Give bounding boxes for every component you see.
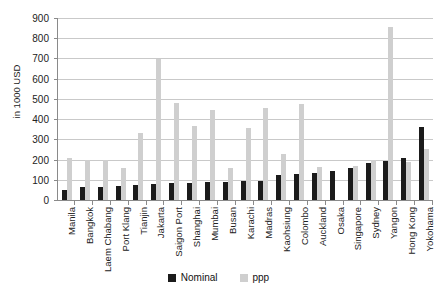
bar-ppp [138,133,143,200]
bar-ppp [121,168,126,200]
x-label-cell: Colombo [290,205,308,267]
x-label-cell: Laem Chabang [93,205,111,267]
x-label-cell: Yangon [379,205,397,267]
bar-ppp [156,59,161,200]
bar-ppp [263,108,268,200]
bar-group [219,18,237,200]
chart-legend: Nominalppp [0,272,437,283]
x-label-cell: Manila [57,205,75,267]
x-label-cell: Osaka [326,205,344,267]
bar-group [237,18,255,200]
x-label-cell: Shanghai [182,205,200,267]
x-label-cell: Busan [218,205,236,267]
legend-swatch-icon [168,274,176,282]
legend-swatch-icon [240,274,248,282]
legend-label: Nominal [181,272,218,283]
legend-label: ppp [253,272,270,283]
bar-group [344,18,362,200]
bar-ppp [353,166,358,200]
y-tick-label-900: 900 [32,13,49,24]
y-tick-label-400: 400 [32,114,49,125]
bar-group [272,18,290,200]
bar-ppp [406,162,411,200]
y-tick-label-600: 600 [32,73,49,84]
bar-group [379,18,397,200]
x-label-cell: Saigon Port [164,205,182,267]
y-tick-label-200: 200 [32,154,49,165]
x-label-cell: Yokohama [415,205,433,267]
legend-item-nominal: Nominal [168,272,218,283]
bar-groups [58,18,433,200]
bar-group [183,18,201,200]
bar-ppp [103,160,108,200]
x-label-cell: Madras [254,205,272,267]
legend-item-ppp: ppp [240,272,270,283]
x-label-cell: Hong Kong [397,205,415,267]
x-label-cell: Tianjin [129,205,147,267]
bar-group [58,18,76,200]
bar-ppp [317,167,322,200]
y-tick-label-300: 300 [32,134,49,145]
bar-group [201,18,219,200]
bar-ppp [174,103,179,200]
bar-group [254,18,272,200]
bar-group [308,18,326,200]
bar-ppp [371,160,376,200]
bar-group [290,18,308,200]
bar-group [326,18,344,200]
bar-group [165,18,183,200]
x-label-cell: Karachi [236,205,254,267]
bar-ppp [192,126,197,200]
bar-group [397,18,415,200]
bar-nominal [330,171,335,200]
x-label-cell: Port Klang [111,205,129,267]
bar-ppp [210,110,215,200]
x-label-cell: Kaohsiung [272,205,290,267]
bar-group [147,18,165,200]
x-label-cell: Auckland [308,205,326,267]
x-label-cell: Jakarta [147,205,165,267]
bar-ppp [67,158,72,200]
bar-ppp [246,128,251,200]
y-tick-label-0: 0 [43,195,49,206]
bar-group [112,18,130,200]
y-tick-label-500: 500 [32,93,49,104]
y-tick-label-800: 800 [32,33,49,44]
bar-ppp [85,160,90,200]
bar-group [415,18,433,200]
bar-group [76,18,94,200]
x-tick-label: Yokohama [424,207,435,252]
bar-ppp [281,154,286,200]
bar-ppp [299,104,304,200]
bar-group [94,18,112,200]
y-axis-tick-labels: 9008007006005004003002001000 [0,0,56,218]
plot-area [57,18,433,200]
bar-chart: in 1000 USD 9008007006005004003002001000… [0,0,437,295]
x-label-cell: Sydney [361,205,379,267]
x-axis-category-labels: ManilaBangkokLaem ChabangPort KlangTianj… [57,205,433,267]
bar-group [129,18,147,200]
bar-ppp [424,149,429,200]
y-tick-label-700: 700 [32,53,49,64]
x-label-cell: Singapore [344,205,362,267]
y-tick-label-100: 100 [32,174,49,185]
bar-ppp [228,168,233,200]
bar-group [362,18,380,200]
bar-ppp [388,27,393,201]
x-label-cell: Mumbai [200,205,218,267]
x-label-cell: Bangkok [75,205,93,267]
